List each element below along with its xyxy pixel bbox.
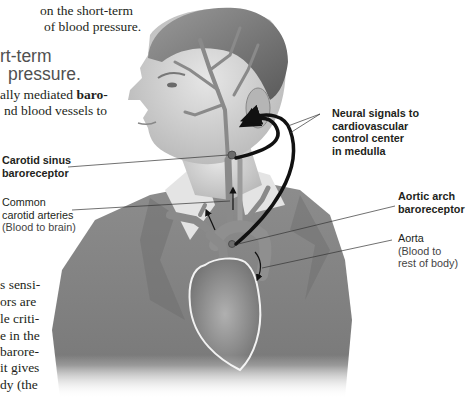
body-text-line: dy (the [0, 377, 38, 393]
label-line: baroreceptor [398, 203, 465, 215]
label-line: Aortic arch [398, 190, 455, 202]
label-line: in medulla [332, 145, 385, 157]
heading-line: rt-term [0, 46, 52, 66]
body-text-line: nd blood vessels to [4, 103, 107, 119]
label-aorta: Aorta (Blood to rest of body) [398, 232, 458, 270]
label-line: rest of body) [398, 257, 458, 269]
label-line: Common [2, 196, 46, 208]
label-line: Aorta [398, 232, 424, 244]
label-line: cardiovascular [332, 120, 408, 132]
label-line: (Blood to [398, 245, 441, 257]
head-shape [128, 8, 288, 164]
label-line: carotid arteries [2, 209, 73, 221]
label-aortic-arch-baroreceptor: Aortic arch baroreceptor [398, 190, 465, 215]
label-line: (Blood to brain) [2, 221, 76, 233]
label-carotid-sinus-baroreceptor: Carotid sinus baroreceptor [2, 154, 71, 179]
body-text-line: of blood pressure. [44, 19, 141, 35]
body-text-line: s sensi- [0, 277, 40, 293]
body-text-line: it gives [0, 360, 39, 376]
label-line: Neural signals to [332, 107, 419, 119]
label-common-carotid-arteries: Common carotid arteries (Blood to brain) [2, 196, 76, 234]
heading-line: pressure. [8, 64, 81, 84]
label-line: Carotid sinus [2, 154, 71, 166]
body-text-line: e in the [0, 328, 40, 344]
intro-text-plain: ally mediated [0, 87, 76, 102]
body-text-line: on the short-term [40, 3, 133, 19]
label-line: control center [332, 132, 404, 144]
label-line: baroreceptor [2, 167, 69, 179]
intro-text-bold-term: baro- [76, 87, 107, 102]
label-neural-signals: Neural signals to cardiovascular control… [332, 107, 419, 157]
body-text-line: le criti- [0, 311, 39, 327]
body-text-line: ors are [0, 294, 36, 310]
body-text-line: barore- [0, 344, 39, 360]
